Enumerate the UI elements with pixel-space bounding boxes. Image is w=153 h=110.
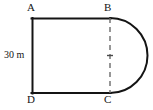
vertex-label-c: C — [104, 94, 111, 105]
dimension-label-left-side: 30 m — [4, 49, 24, 60]
vertex-label-d: D — [27, 94, 35, 105]
geometry-figure: A B C D 30 m — [0, 0, 153, 110]
vertex-label-b: B — [104, 2, 111, 13]
semicircle-arc-bc — [110, 18, 148, 93]
vertex-label-a: A — [27, 2, 35, 13]
